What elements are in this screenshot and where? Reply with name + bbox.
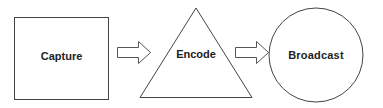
- encode-label: Encode: [160, 48, 232, 60]
- arrow-encode-to-broadcast: [236, 42, 269, 64]
- arrow-capture-to-encode: [118, 42, 151, 64]
- capture-label: Capture: [14, 50, 109, 62]
- broadcast-label: Broadcast: [276, 49, 356, 61]
